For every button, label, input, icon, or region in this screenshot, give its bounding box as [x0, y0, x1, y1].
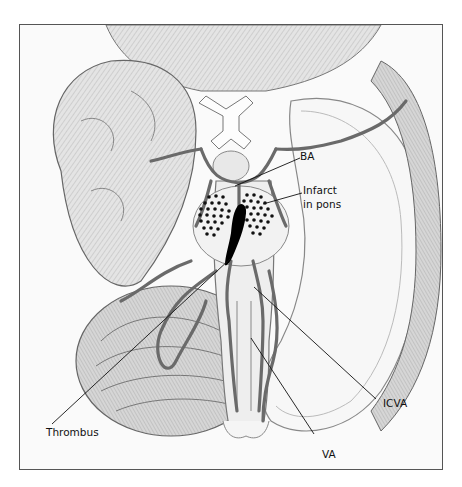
label-infarct-line2: in pons — [303, 198, 341, 211]
brain-illustration — [20, 25, 443, 470]
label-infarct-line1: Infarct — [303, 184, 337, 197]
figure-frame — [19, 24, 443, 470]
label-thrombus: Thrombus — [46, 426, 99, 439]
label-ba: BA — [300, 150, 314, 163]
label-va: VA — [322, 448, 336, 461]
label-icva: ICVA — [383, 397, 407, 410]
optic-chiasm — [199, 96, 253, 149]
left-temporal-lobe — [53, 60, 196, 286]
